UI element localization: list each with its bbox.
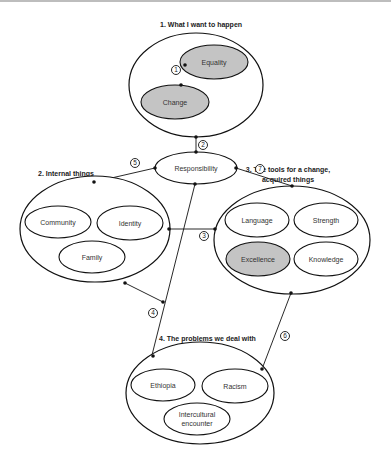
svg-text:2: 2 <box>201 141 205 148</box>
badge-6: 6 <box>281 332 290 341</box>
group-1-title: 1. What I want to happen <box>160 21 242 29</box>
group-3-title-line2: acquired things <box>262 176 314 184</box>
excellence-label: Excellence <box>241 256 275 263</box>
identity-label: Identity <box>119 220 142 228</box>
community-label: Community <box>40 219 76 227</box>
svg-text:5: 5 <box>133 159 137 166</box>
language-label: Language <box>241 217 272 225</box>
knowledge-label: Knowledge <box>309 256 344 264</box>
group-1-what-i-want: 1. What I want to happen Equality Change <box>129 21 263 137</box>
badge-3: 3 <box>200 232 209 241</box>
equality-label: Equality <box>202 59 227 67</box>
svg-text:3: 3 <box>202 232 206 239</box>
badge-4: 4 <box>149 309 158 318</box>
change-label: Change <box>163 99 188 107</box>
intercultural-label: Intercultural <box>179 411 216 418</box>
badge-5: 5 <box>131 159 140 168</box>
responsibility-label: Responsibility <box>174 165 218 173</box>
svg-text:6: 6 <box>283 332 287 339</box>
badge-7: 7 <box>256 165 265 174</box>
concept-diagram: 1. What I want to happen Equality Change… <box>0 0 391 465</box>
ethiopia-label: Ethiopia <box>150 382 175 390</box>
encounter-label: encounter <box>181 420 213 427</box>
strength-label: Strength <box>313 217 340 225</box>
svg-text:4: 4 <box>151 309 155 316</box>
group-2-internal-things: 2. Internal things Community Identity Fa… <box>20 170 170 282</box>
svg-text:1: 1 <box>174 66 178 73</box>
group-3-ellipse <box>214 186 370 294</box>
badge-1: 1 <box>172 66 181 75</box>
connector-6-line <box>262 293 291 369</box>
responsibility-hub: Responsibility <box>155 152 237 184</box>
svg-text:7: 7 <box>258 165 262 172</box>
badge-2: 2 <box>199 141 208 150</box>
racism-label: Racism <box>223 383 247 390</box>
family-label: Family <box>82 254 103 262</box>
intercultural-encounter-node <box>164 403 230 435</box>
connector-4-line <box>125 283 163 302</box>
group-4-problems: 4. The problems we deal with Ethiopia Ra… <box>126 335 274 444</box>
